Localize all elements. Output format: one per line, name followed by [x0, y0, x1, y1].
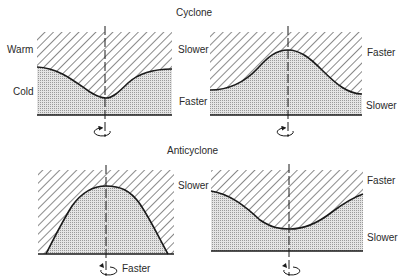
panel-cyclone-left — [37, 26, 172, 137]
title-cyclone: Cyclone — [176, 7, 212, 18]
label-slower: Slower — [366, 100, 397, 111]
panel-anticyclone-left — [38, 165, 174, 276]
panel-cyclone-right — [210, 26, 362, 137]
label-faster: Faster — [179, 96, 207, 107]
title-anticyclone: Anticyclone — [167, 145, 218, 156]
label-cold: Cold — [13, 86, 34, 97]
clockwise-rotation-icon — [282, 263, 300, 275]
clockwise-rotation-icon — [99, 263, 117, 275]
label-faster: Faster — [367, 47, 395, 58]
label-slower: Slower — [178, 180, 209, 191]
label-faster: Faster — [367, 175, 395, 186]
counterclockwise-rotation-icon — [277, 128, 293, 136]
counterclockwise-rotation-icon — [94, 128, 110, 136]
diagram-canvas — [0, 0, 404, 279]
label-warm: Warm — [7, 44, 33, 55]
panel-anticyclone-right — [211, 164, 363, 276]
label-faster: Faster — [122, 263, 150, 274]
label-slower: Slower — [178, 44, 209, 55]
label-slower: Slower — [367, 232, 398, 243]
